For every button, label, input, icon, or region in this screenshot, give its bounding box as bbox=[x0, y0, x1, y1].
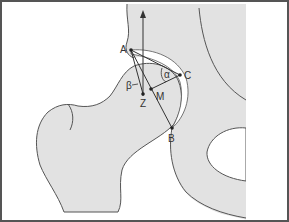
femur-shape bbox=[36, 63, 181, 212]
point-A bbox=[129, 48, 133, 52]
label-C: C bbox=[184, 70, 191, 81]
label-M: M bbox=[156, 91, 164, 102]
label-Z: Z bbox=[140, 98, 146, 109]
point-M bbox=[149, 87, 153, 91]
label-A: A bbox=[120, 44, 127, 55]
label-beta: β bbox=[126, 80, 132, 91]
label-B: B bbox=[168, 133, 175, 144]
point-C bbox=[178, 73, 182, 77]
hip-joint-diagram: A B C M Z α β bbox=[0, 0, 289, 222]
point-Z bbox=[141, 92, 145, 96]
label-alpha: α bbox=[164, 69, 170, 80]
point-B bbox=[170, 126, 174, 130]
